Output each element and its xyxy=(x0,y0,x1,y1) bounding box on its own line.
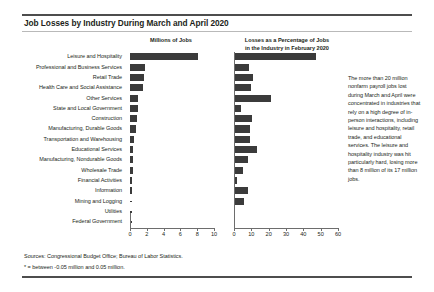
category-label: Retail Trade xyxy=(0,73,122,82)
bar-percentage xyxy=(234,125,250,132)
right-panel-header: Losses as a Percentage of Jobs in the In… xyxy=(232,37,342,52)
bar-track-percentage xyxy=(234,105,338,112)
chart-row: Utilities xyxy=(0,206,434,216)
axis-tick-label: 4 xyxy=(162,231,165,237)
bar-track-millions xyxy=(130,125,214,132)
title-underline xyxy=(22,31,412,32)
chart-row: Mining and Logging xyxy=(0,196,434,206)
chart-row: Information xyxy=(0,186,434,196)
category-label: Utilities xyxy=(0,207,122,216)
bar-track-percentage xyxy=(234,146,338,153)
category-label: Transportation and Warehousing xyxy=(0,135,122,144)
axis-tick-label: 8 xyxy=(196,231,199,237)
bar-track-millions xyxy=(130,177,214,184)
category-label: Wholesale Trade xyxy=(0,166,122,175)
axis-tick-label: 20 xyxy=(266,231,272,237)
bar-percentage xyxy=(234,167,243,174)
bar-millions xyxy=(130,146,133,153)
bar-track-percentage xyxy=(234,95,338,102)
bar-track-percentage xyxy=(234,64,338,71)
category-label: Information xyxy=(0,186,122,195)
footnote-line: * = between -0.05 million and 0.05 milli… xyxy=(24,264,125,270)
right-x-axis xyxy=(234,228,338,229)
category-label: Federal Government xyxy=(0,217,122,226)
bar-percentage xyxy=(234,74,253,81)
bar-millions xyxy=(130,156,133,163)
bar-percentage xyxy=(234,84,251,91)
bar-track-millions xyxy=(130,95,214,102)
bar-percentage xyxy=(234,64,249,71)
bar-track-millions xyxy=(130,208,214,215)
bar-millions xyxy=(130,95,138,102)
top-rule xyxy=(22,14,412,16)
bar-track-millions xyxy=(130,74,214,81)
category-label: Leisure and Hospitality xyxy=(0,52,122,61)
figure-title: Job Losses by Industry During March and … xyxy=(24,18,229,28)
chart-row: Federal Government xyxy=(0,217,434,227)
bar-track-percentage xyxy=(234,198,338,205)
category-label: Mining and Logging xyxy=(0,197,122,206)
axis-tick-label: 10 xyxy=(211,231,217,237)
category-label: Financial Activities xyxy=(0,176,122,185)
right-panel-header-line2: in the Industry in February 2020 xyxy=(232,45,342,53)
bar-percentage xyxy=(234,187,248,194)
bar-track-percentage xyxy=(234,187,338,194)
right-panel-header-line1: Losses as a Percentage of Jobs xyxy=(232,37,342,45)
chart-row: Professional and Business Services xyxy=(0,62,434,72)
bar-track-percentage xyxy=(234,208,338,215)
bar-track-percentage xyxy=(234,167,338,174)
axis-tick-label: 0 xyxy=(128,231,131,237)
bar-percentage xyxy=(234,95,271,102)
bar-millions xyxy=(130,105,138,112)
bar-track-percentage xyxy=(234,115,338,122)
category-label: Construction xyxy=(0,114,122,123)
bar-track-percentage xyxy=(234,74,338,81)
category-label: Other Services xyxy=(0,94,122,103)
bar-track-millions xyxy=(130,167,214,174)
bar-track-millions xyxy=(130,64,214,71)
left-panel-header: Millions of Jobs xyxy=(128,37,214,45)
bar-percentage xyxy=(234,198,244,205)
bar-percentage xyxy=(234,115,252,122)
left-axis-origin-tick xyxy=(130,213,131,229)
bar-track-millions xyxy=(130,146,214,153)
bar-track-millions xyxy=(130,218,214,225)
bar-track-millions xyxy=(130,136,214,143)
axis-tick-label: 0 xyxy=(232,231,235,237)
bar-track-percentage xyxy=(234,177,338,184)
category-label: Manufacturing, Durable Goods xyxy=(0,124,122,133)
bar-millions xyxy=(130,115,137,122)
left-x-axis xyxy=(130,228,214,229)
axis-tick-label: 6 xyxy=(179,231,182,237)
axis-tick-label: 40 xyxy=(300,231,306,237)
sources-line: Sources: Congressional Budget Office; Bu… xyxy=(24,253,183,259)
bar-millions xyxy=(130,167,133,174)
side-note: The more than 20 million nonfarm payroll… xyxy=(348,74,422,183)
bar-track-millions xyxy=(130,187,214,194)
axis-tick-label: 50 xyxy=(318,231,324,237)
bar-percentage xyxy=(234,53,316,60)
axis-tick-label: 10 xyxy=(248,231,254,237)
bar-millions xyxy=(130,53,198,60)
bar-track-percentage xyxy=(234,218,338,225)
bar-millions xyxy=(130,136,134,143)
bar-track-percentage xyxy=(234,125,338,132)
bar-track-millions xyxy=(130,84,214,91)
bar-percentage xyxy=(234,136,250,143)
category-label: State and Local Government xyxy=(0,104,122,113)
asterisk-marker-icon xyxy=(130,201,132,203)
axis-tick-label: 2 xyxy=(145,231,148,237)
category-label: Manufacturing, Nondurable Goods xyxy=(0,155,122,164)
bar-millions xyxy=(130,64,145,71)
bar-percentage xyxy=(234,156,248,163)
bar-track-percentage xyxy=(234,84,338,91)
bar-track-millions xyxy=(130,115,214,122)
category-label: Educational Services xyxy=(0,145,122,154)
category-label: Professional and Business Services xyxy=(0,63,122,72)
bar-track-millions xyxy=(130,105,214,112)
chart-row: Leisure and Hospitality xyxy=(0,52,434,62)
bar-track-percentage xyxy=(234,156,338,163)
bar-track-percentage xyxy=(234,136,338,143)
bottom-rule xyxy=(22,276,412,278)
axis-tick-label: 30 xyxy=(283,231,289,237)
